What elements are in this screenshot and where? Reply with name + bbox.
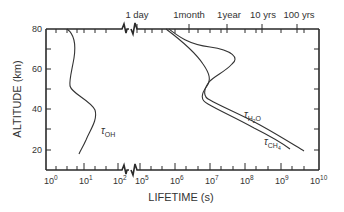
x-tick-1e7: 107 — [205, 174, 219, 186]
svg-text:1010: 1010 — [310, 174, 328, 186]
y-tick-60: 60 — [32, 64, 42, 74]
plot-frame — [46, 23, 319, 175]
y-axis-title: ALTITUDE (km) — [11, 60, 23, 137]
x-tick-1e8: 108 — [240, 174, 254, 186]
y-tick-20: 20 — [32, 145, 42, 155]
x-tick-1e1: 101 — [79, 174, 93, 186]
x-tick-1e6: 106 — [170, 174, 184, 186]
x-tick-1e10: 1010 — [310, 174, 328, 186]
x-tick-1e0: 100 — [44, 174, 58, 186]
x-axis-bottom-right-segment — [131, 164, 319, 175]
svg-text:107: 107 — [205, 174, 219, 186]
y-tick-80: 80 — [32, 24, 42, 34]
label-tau-h2o: τH2O — [244, 109, 262, 124]
lifetime-altitude-chart: 80 60 40 20 ALTITUDE (km) 100 101 102 10… — [0, 0, 344, 212]
svg-text:106: 106 — [170, 174, 184, 186]
x-axis-title: LIFETIME (s) — [148, 191, 213, 203]
svg-text:102: 102 — [113, 174, 127, 186]
x-axis-top-left-segment — [46, 24, 129, 33]
x-tick-1e5: 105 — [135, 174, 149, 186]
label-tau-oh: τOH — [101, 125, 115, 138]
x-ticks-bottom — [56, 163, 304, 170]
x-tick-labels: 100 101 102 105 106 107 108 109 1010 — [44, 174, 328, 186]
svg-text:108: 108 — [240, 174, 254, 186]
svg-text:101: 101 — [79, 174, 93, 186]
x-tick-1e9: 109 — [275, 174, 289, 186]
top-axis-labels: 1 day 1month 1year 10 yrs 100 yrs — [125, 9, 314, 20]
top-label-10-yrs: 10 yrs — [250, 9, 276, 20]
top-label-1-month: 1month — [173, 9, 205, 20]
x-axis-top-right-segment — [131, 23, 319, 34]
svg-text:100: 100 — [44, 174, 58, 186]
y-tick-40: 40 — [32, 104, 42, 114]
top-label-1-day: 1 day — [125, 9, 148, 20]
series-labels: τOH τH2O τCH4 — [101, 109, 281, 151]
svg-text:109: 109 — [275, 174, 289, 186]
curve-tau-oh — [67, 29, 96, 154]
curve-tau-h2o — [169, 29, 304, 151]
top-label-1-year: 1year — [217, 9, 241, 20]
x-tick-1e2: 102 — [113, 174, 127, 186]
x-axis-bottom-left-segment — [46, 165, 129, 174]
top-label-100-yrs: 100 yrs — [283, 9, 314, 20]
svg-text:105: 105 — [135, 174, 149, 186]
y-tick-labels: 80 60 40 20 — [32, 24, 42, 155]
